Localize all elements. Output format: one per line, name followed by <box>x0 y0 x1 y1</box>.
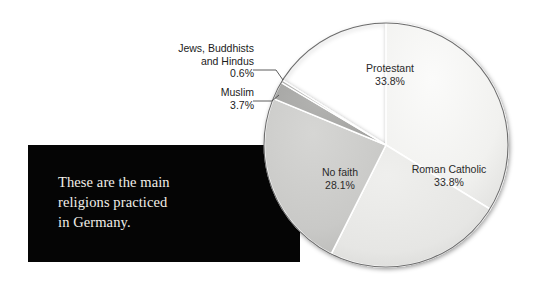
leader-line-jews-buddhists-hindus <box>253 70 283 80</box>
slice-label-protestant-name: Protestant <box>335 62 445 75</box>
slice-label-roman-catholic: Roman Catholic 33.8% <box>389 163 509 188</box>
caption-line-3: in Germany. <box>58 212 238 232</box>
infographic-canvas: These are the main religions practiced i… <box>0 0 534 285</box>
slice-label-protestant-value: 33.8% <box>335 75 445 88</box>
callout-jbh-line-1: Jews, Buddhists <box>96 42 254 55</box>
callout-muslim: Muslim 3.7% <box>126 86 254 111</box>
slice-label-no-faith-value: 28.1% <box>296 179 384 192</box>
caption-line-1: These are the main <box>58 172 238 192</box>
slice-label-roman-catholic-name: Roman Catholic <box>389 163 509 176</box>
caption-line-2: religions practiced <box>58 192 238 212</box>
callout-jbh-line-2: and Hindus <box>96 55 254 68</box>
slice-label-no-faith: No faith 28.1% <box>296 166 384 191</box>
pie-slice-group <box>264 23 508 267</box>
callout-muslim-value: 3.7% <box>126 99 254 112</box>
callout-jbh-value: 0.6% <box>96 67 254 80</box>
callout-jews-buddhists-hindus: Jews, Buddhists and Hindus 0.6% <box>96 42 254 80</box>
pie-chart-svg <box>0 0 534 285</box>
slice-label-protestant: Protestant 33.8% <box>335 62 445 87</box>
pie-chart <box>0 0 534 285</box>
caption-text: These are the main religions practiced i… <box>58 172 238 232</box>
callout-muslim-label: Muslim <box>126 86 254 99</box>
slice-label-no-faith-name: No faith <box>296 166 384 179</box>
slice-label-roman-catholic-value: 33.8% <box>389 176 509 189</box>
